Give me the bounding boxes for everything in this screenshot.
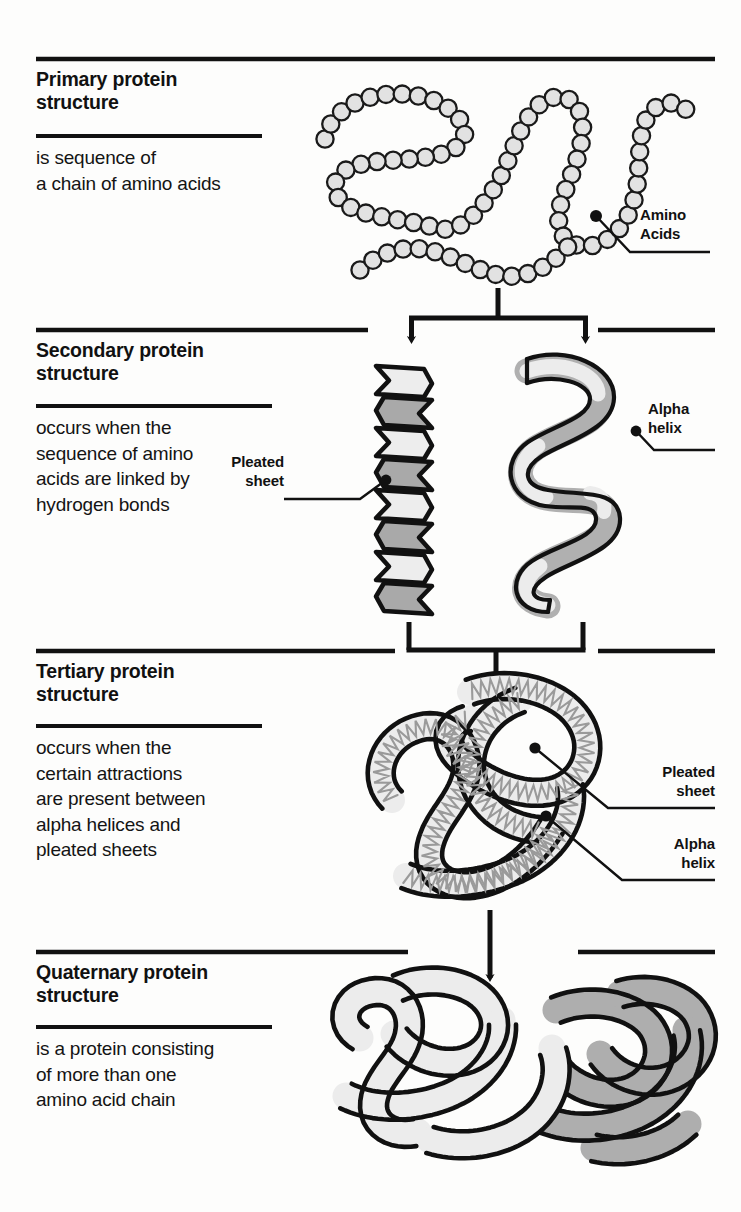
diagram-canvas [0,0,741,1212]
figure-tertiary-fold [368,673,715,898]
section-rules [36,59,715,1027]
flow-arrow-secondary-to-tertiary [407,622,586,678]
figure-alpha-helix [511,355,715,612]
pleated-sheet-leader-line [284,480,386,499]
figure-pleated-sheet [284,366,432,614]
protein-structure-diagram: Primary protein structure is sequence of… [0,0,741,1212]
flow-arrow-primary-to-secondary [409,288,588,340]
figure-bead-chain [316,86,710,285]
alpha-helix-leader-line [636,431,715,450]
figure-quaternary-assembly [332,968,715,1165]
